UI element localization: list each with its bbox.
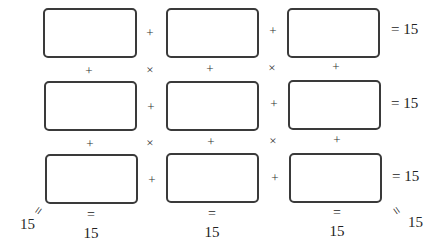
col3-plus-2: + bbox=[330, 133, 344, 146]
diag-times-3: × bbox=[143, 136, 157, 149]
row1-sum: = 15 bbox=[391, 22, 418, 37]
col1-equals: = bbox=[76, 208, 106, 222]
col2-plus-1: + bbox=[203, 62, 217, 75]
cell-r3-c3[interactable] bbox=[289, 153, 382, 203]
cell-r1-c2[interactable] bbox=[166, 8, 259, 58]
row2-plus-2: + bbox=[267, 97, 281, 110]
anti-diagonal-value: 15 bbox=[20, 217, 35, 232]
cell-r2-c1[interactable] bbox=[44, 81, 137, 131]
col3-plus-1: + bbox=[329, 60, 343, 73]
row3-plus-2: + bbox=[268, 171, 282, 184]
col2-equals: = bbox=[197, 207, 227, 221]
cell-r1-c3[interactable] bbox=[287, 8, 380, 58]
col3-equals: = bbox=[322, 206, 352, 220]
row2-sum: = 15 bbox=[391, 96, 418, 111]
row2-plus-1: + bbox=[144, 100, 158, 113]
diag-times-2: × bbox=[265, 61, 279, 74]
cell-r3-c1[interactable] bbox=[45, 154, 138, 204]
cell-r2-c2[interactable] bbox=[166, 81, 259, 131]
cell-r2-c3[interactable] bbox=[288, 80, 381, 130]
col2-value: 15 bbox=[197, 225, 227, 240]
cell-r3-c2[interactable] bbox=[166, 153, 259, 203]
col2-plus-2: + bbox=[204, 135, 218, 148]
row3-plus-1: + bbox=[145, 173, 159, 186]
col2-sum: = 15 bbox=[197, 207, 227, 240]
col3-value: 15 bbox=[322, 224, 352, 239]
diag-times-1: × bbox=[143, 63, 157, 76]
col1-sum: = 15 bbox=[76, 208, 106, 241]
row1-plus-1: + bbox=[143, 26, 157, 39]
cell-r1-c1[interactable] bbox=[43, 8, 137, 58]
col1-plus-1: + bbox=[82, 64, 96, 77]
row3-sum: = 15 bbox=[392, 169, 419, 184]
col3-sum: = 15 bbox=[322, 206, 352, 239]
col1-plus-2: + bbox=[83, 137, 97, 150]
col1-value: 15 bbox=[76, 226, 106, 241]
main-diagonal-equals: = bbox=[388, 204, 404, 219]
main-diagonal-value: 15 bbox=[408, 215, 423, 230]
diag-times-4: × bbox=[266, 134, 280, 147]
row1-plus-2: + bbox=[266, 24, 280, 37]
